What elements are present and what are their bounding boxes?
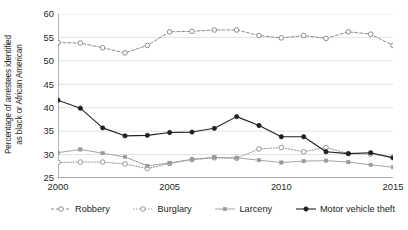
x-tick-label: 2005 [150, 181, 190, 192]
data-point [301, 135, 305, 139]
y-tick-label: 30 [36, 150, 54, 159]
data-point [100, 126, 104, 130]
data-point [324, 36, 329, 41]
data-point [100, 160, 105, 165]
data-point [190, 29, 195, 34]
series-line [58, 100, 393, 158]
y-axis-label: Percentage of arrestees identified as bl… [0, 0, 30, 188]
legend-marker-icon [295, 204, 317, 214]
legend-marker-icon [132, 204, 154, 214]
data-point [280, 161, 283, 164]
data-point [234, 28, 239, 33]
legend-label: Larceny [239, 204, 272, 214]
data-point [58, 98, 60, 102]
data-point [301, 149, 306, 154]
data-point [301, 33, 306, 38]
data-point [302, 159, 305, 162]
x-tick-label: 2010 [261, 181, 301, 192]
data-point [190, 130, 194, 134]
legend-marker-icon [50, 204, 72, 214]
x-axis-ticks: 2000200520102015 [58, 181, 393, 195]
data-point [101, 151, 104, 154]
y-tick-label: 55 [36, 33, 54, 42]
y-tick-label: 50 [36, 56, 54, 65]
y-axis-ticks: 2530354045505560 [33, 14, 54, 178]
data-point [279, 145, 284, 150]
data-point [257, 33, 262, 38]
y-axis-label-line-2: as black or African American [15, 34, 26, 153]
legend-marker-icon [214, 204, 236, 214]
data-point [368, 32, 373, 37]
data-point [123, 162, 128, 167]
data-point [391, 166, 393, 169]
data-point [145, 133, 149, 137]
data-point [324, 159, 327, 162]
data-point [346, 151, 350, 155]
data-point [324, 145, 329, 150]
data-point [213, 156, 216, 159]
y-tick-label: 45 [36, 80, 54, 89]
data-point [168, 161, 171, 164]
data-point [58, 40, 60, 45]
legend-label: Motor vehicle theft [320, 204, 395, 214]
data-point [100, 45, 105, 50]
series-robbery [58, 28, 393, 56]
chart-legend: RobberyBurglaryLarcenyMotor vehicle thef… [50, 200, 395, 218]
data-point [279, 135, 283, 139]
data-point [257, 147, 262, 152]
y-tick-label: 60 [36, 9, 54, 18]
data-point [212, 28, 217, 33]
x-tick-label: 2015 [373, 181, 408, 192]
data-point [391, 43, 393, 48]
y-tick-label: 40 [36, 103, 54, 112]
data-point [368, 150, 372, 154]
legend-item-motor-vehicle-theft[interactable]: Motor vehicle theft [295, 204, 395, 214]
series-line [58, 30, 393, 53]
data-point [123, 134, 127, 138]
data-point [146, 164, 149, 167]
data-point [167, 130, 171, 134]
data-point [167, 30, 172, 35]
data-point [190, 158, 193, 161]
data-point [123, 51, 128, 56]
x-tick-label: 2000 [38, 181, 78, 192]
data-point [58, 160, 60, 165]
data-point [145, 43, 150, 48]
legend-label: Robbery [75, 204, 110, 214]
data-point [324, 150, 328, 154]
data-point [346, 30, 351, 35]
data-point [369, 163, 372, 166]
y-tick-label: 35 [36, 126, 54, 135]
data-point [58, 151, 60, 154]
legend-item-burglary[interactable]: Burglary [132, 204, 191, 214]
legend-item-robbery[interactable]: Robbery [50, 204, 110, 214]
chart-svg [58, 14, 393, 178]
data-point [79, 148, 82, 151]
series-line [58, 148, 393, 169]
data-point [123, 155, 126, 158]
series-burglary [58, 145, 393, 171]
y-axis-label-line-1: Percentage of arrestees identified [5, 34, 16, 153]
data-point [391, 156, 393, 160]
legend-label: Burglary [157, 204, 191, 214]
data-point [78, 106, 82, 110]
data-point [235, 156, 238, 159]
data-point [347, 160, 350, 163]
data-point [78, 160, 83, 165]
data-point [257, 158, 260, 161]
data-point [78, 41, 83, 46]
data-point [279, 36, 284, 41]
plot-area [58, 14, 393, 178]
data-point [212, 126, 216, 130]
legend-item-larceny[interactable]: Larceny [214, 204, 272, 214]
data-point [234, 114, 238, 118]
data-point [257, 123, 261, 127]
